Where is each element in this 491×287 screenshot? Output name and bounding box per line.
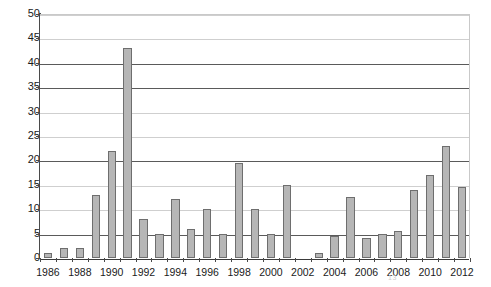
bar (187, 229, 195, 258)
bar (251, 209, 259, 258)
x-tick-mark (104, 258, 105, 262)
x-tick-mark (374, 258, 375, 262)
x-tick-mark (279, 258, 280, 262)
bar (76, 248, 84, 258)
bar (108, 151, 116, 258)
x-tick-mark (56, 258, 57, 262)
footnote-marker: 13 (388, 274, 397, 281)
x-tick-mark (295, 258, 296, 262)
bar (171, 199, 179, 258)
bar (203, 209, 211, 258)
y-tick-label: 25 (6, 130, 40, 141)
x-tick-mark (311, 258, 312, 262)
x-tick-mark (438, 258, 439, 262)
y-tick-label: 30 (6, 106, 40, 117)
bar (362, 238, 370, 258)
bar (410, 190, 418, 258)
x-tick-mark (167, 258, 168, 262)
y-tick-label: 40 (6, 57, 40, 68)
x-tick-mark (72, 258, 73, 262)
x-tick-mark (454, 258, 455, 262)
x-tick-mark (327, 258, 328, 262)
y-tick-label: 50 (6, 8, 40, 19)
x-tick-mark (343, 258, 344, 262)
bar (330, 236, 338, 258)
bar (378, 234, 386, 258)
y-axis: 05101520253035404550 (0, 0, 40, 287)
bar (155, 234, 163, 258)
bar-chart: 05101520253035404550 1986198819901992199… (0, 0, 491, 287)
x-tick-mark (88, 258, 89, 262)
y-tick-label: 45 (6, 32, 40, 43)
x-tick-mark (199, 258, 200, 262)
bar (123, 48, 131, 258)
x-tick-mark (231, 258, 232, 262)
x-axis: 1986198819901992199419961998200020022004… (40, 258, 470, 287)
bar (442, 146, 450, 258)
x-tick-mark (470, 258, 471, 262)
bar (283, 185, 291, 258)
bar (394, 231, 402, 258)
x-tick-mark (151, 258, 152, 262)
x-tick-mark (247, 258, 248, 262)
x-tick-mark (406, 258, 407, 262)
bars-group (40, 15, 469, 258)
plot-area (40, 14, 470, 258)
x-tick-mark (390, 258, 391, 262)
x-tick-mark (40, 258, 41, 262)
bar (139, 219, 147, 258)
y-tick-label: 15 (6, 179, 40, 190)
bar (426, 175, 434, 258)
bar (346, 197, 354, 258)
bar (267, 234, 275, 258)
bar (458, 187, 466, 258)
x-tick-mark (120, 258, 121, 262)
bar (60, 248, 68, 258)
x-tick-mark (422, 258, 423, 262)
bar (235, 163, 243, 258)
y-tick-label: 0 (6, 252, 40, 263)
x-tick-mark (136, 258, 137, 262)
y-tick-label: 35 (6, 81, 40, 92)
x-tick-mark (215, 258, 216, 262)
bar (219, 234, 227, 258)
x-tick-mark (183, 258, 184, 262)
bar (92, 195, 100, 258)
x-tick-mark (263, 258, 264, 262)
y-tick-label: 10 (6, 203, 40, 214)
x-tick-mark (359, 258, 360, 262)
y-tick-label: 20 (6, 154, 40, 165)
y-tick-label: 5 (6, 228, 40, 239)
x-tick-label: 2012 (442, 266, 482, 278)
